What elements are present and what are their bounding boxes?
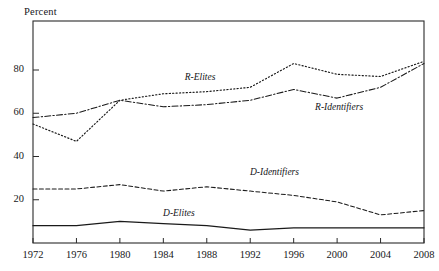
series-line-d-identifiers [33,185,424,215]
x-tick-label: 1996 [274,249,314,260]
y-tick-label: 60 [2,106,24,117]
x-tick-label: 1992 [230,249,270,260]
series-line-d-elites [33,221,424,230]
series-label-r-elites: R-Elites [185,72,216,82]
series-line-r-elites [33,61,424,141]
chart-canvas [0,0,439,271]
y-tick-label: 80 [2,63,24,74]
plot-frame [33,21,424,243]
x-tick-label: 2000 [317,249,357,260]
x-tick-label: 1972 [13,249,53,260]
data-series-group [33,61,424,230]
x-tick-label: 2008 [404,249,439,260]
x-tick-label: 2004 [361,249,401,260]
series-line-r-identifiers [33,64,424,118]
y-tick-label: 40 [2,150,24,161]
y-tick-marks [33,70,39,200]
chart-figure: Percent 20406080 19721976198019841988199… [0,0,439,271]
x-tick-label: 1984 [143,249,183,260]
series-label-r-identifiers: R-Identifiers [315,102,363,112]
plot-border [33,21,424,243]
x-tick-label: 1976 [56,249,96,260]
y-tick-label: 20 [2,193,24,204]
x-tick-marks [33,238,424,243]
x-tick-label: 1988 [187,249,227,260]
series-label-d-identifiers: D-Identifiers [250,167,299,177]
series-label-d-elites: D-Elites [163,208,195,218]
x-tick-label: 1980 [100,249,140,260]
